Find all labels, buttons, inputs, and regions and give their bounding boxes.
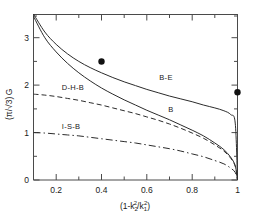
svg-text:(π/√3)G: (π/√3)G xyxy=(4,89,14,120)
curve-dhb xyxy=(34,94,238,180)
x-tick-label-02: 0.2 xyxy=(50,185,62,195)
data-point-2[interactable] xyxy=(234,89,240,95)
x-axis-ticks xyxy=(56,174,237,180)
chart-plot: 0 1 2 3 0.2 0.4 0.6 0.8 1 B-E B D-H-B I-… xyxy=(0,0,263,219)
y-tick-label-0: 0 xyxy=(24,175,29,185)
x-title-close: ) xyxy=(147,201,150,211)
label-dhb: D-H-B xyxy=(62,83,84,92)
x-tick-label-08: 0.8 xyxy=(186,185,198,195)
x-tick-label-10: 1 xyxy=(235,185,240,195)
y-title-close: ) xyxy=(4,97,14,100)
figure-container: 0 1 2 3 0.2 0.4 0.6 0.8 1 B-E B D-H-B I-… xyxy=(0,0,263,219)
svg-text:(1-k22/k12): (1-k22/k12) xyxy=(120,200,150,212)
y-tick-labels: 0 1 2 3 xyxy=(24,33,29,185)
x-axis-ticks-top xyxy=(56,15,215,21)
label-be: B-E xyxy=(159,73,172,82)
y-title-g: G xyxy=(4,89,14,96)
y-axis-ticks xyxy=(34,16,40,180)
curve-be-main xyxy=(34,14,238,180)
x-axis-title: (1-k22/k12) xyxy=(120,200,150,212)
data-point-1[interactable] xyxy=(98,58,104,64)
y-title-root: √3 xyxy=(4,99,14,109)
plot-frame xyxy=(34,14,238,180)
x-tick-label-04: 0.4 xyxy=(96,185,108,195)
y-tick-label-2: 2 xyxy=(24,80,29,90)
y-tick-label-3: 3 xyxy=(24,33,29,43)
y-axis-title: (π/√3)G xyxy=(4,89,14,120)
curve-b-main xyxy=(34,16,238,180)
x-tick-labels: 0.2 0.4 0.6 0.8 1 xyxy=(50,185,240,195)
y-tick-label-1: 1 xyxy=(24,128,29,138)
label-b: B xyxy=(168,105,173,114)
label-isb: I-S-B xyxy=(62,122,81,131)
x-tick-label-06: 0.6 xyxy=(141,185,153,195)
